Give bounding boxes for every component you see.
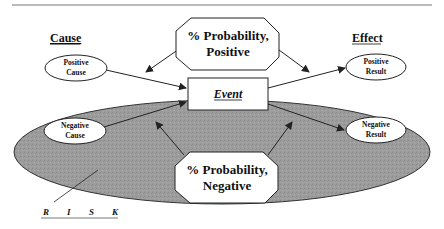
cause-header: Cause	[50, 31, 82, 45]
effect-header: Effect	[352, 31, 383, 45]
arrow-positive-cause-to-event	[106, 70, 186, 88]
risk-label: R I S K	[42, 207, 119, 217]
probability-positive-line2: Positive	[206, 44, 250, 59]
negative-result-line1: Negative	[362, 120, 391, 129]
negative-result-line2: Result	[366, 130, 387, 139]
negative-cause-line2: Cause	[65, 131, 85, 140]
risk-letter-k: K	[111, 207, 119, 217]
negative-cause-line1: Negative	[61, 121, 90, 130]
arrow-event-to-positive-result	[268, 68, 345, 88]
probability-positive-line1: % Probability,	[187, 28, 268, 43]
risk-letter-i: I	[66, 207, 71, 217]
positive-cause-line1: Positive	[64, 58, 90, 67]
probability-negative-line2: Negative	[203, 178, 252, 193]
positive-cause-line2: Cause	[66, 68, 86, 77]
positive-result-line2: Result	[366, 67, 387, 76]
risk-diagram: Cause Effect % Probability, Positive Eve…	[0, 0, 444, 229]
positive-result-line1: Positive	[364, 57, 390, 66]
probability-negative-line1: % Probability,	[186, 162, 267, 177]
risk-letter-r: R	[42, 207, 49, 217]
risk-letter-s: S	[89, 207, 94, 217]
arrow-prob-positive-right	[275, 47, 309, 72]
event-label: Event	[213, 87, 243, 101]
